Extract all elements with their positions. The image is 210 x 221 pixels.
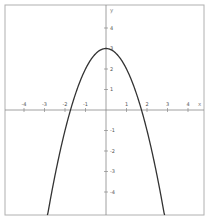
y-tick-label: -4 [110, 189, 115, 195]
y-tick-label: -1 [110, 127, 115, 133]
y-tick-label: 4 [110, 25, 113, 31]
y-tick-label: 2 [110, 66, 113, 72]
x-tick-label: 2 [145, 101, 148, 107]
y-tick-label: 1 [110, 86, 113, 92]
x-tick-label: -2 [63, 101, 68, 107]
y-tick-label: -3 [110, 168, 115, 174]
x-tick-label: -1 [83, 101, 88, 107]
x-tick-label: -4 [22, 101, 27, 107]
x-tick-label: -3 [42, 101, 47, 107]
x-tick-label: 1 [125, 101, 128, 107]
x-tick-label: 3 [166, 101, 169, 107]
function-plot: -4-3-2-11234-4-3-2-11234 x y [0, 0, 210, 221]
x-tick-label: 4 [186, 101, 189, 107]
y-tick-label: -2 [110, 148, 115, 154]
